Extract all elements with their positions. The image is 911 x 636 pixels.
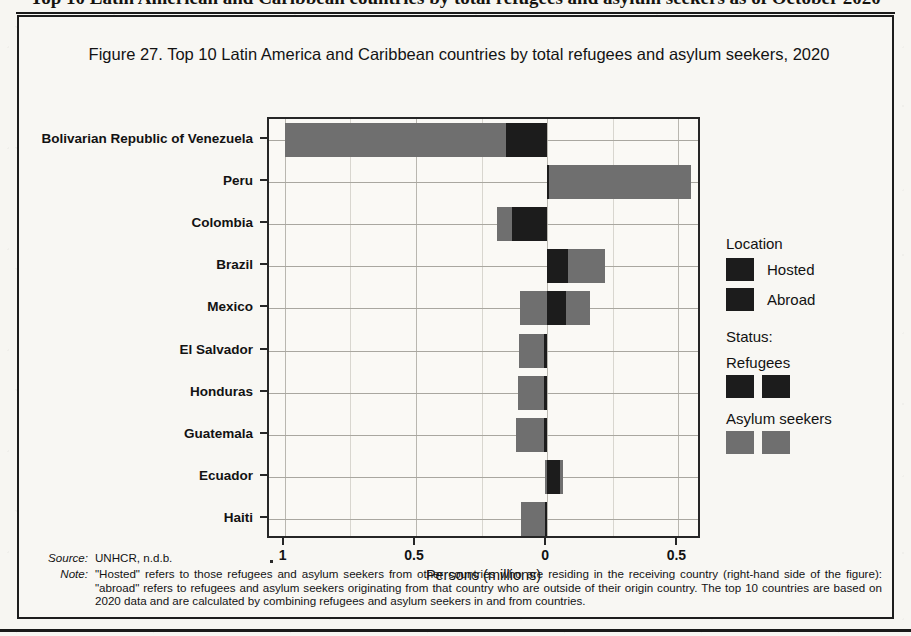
y-axis-label: Haiti (224, 509, 253, 524)
y-axis-label: Bolivarian Republic of Venezuela (41, 131, 253, 146)
legend-refugees-swatches (726, 375, 886, 398)
segment-refugees-abroad (544, 334, 547, 368)
bar-row[interactable] (269, 123, 698, 157)
y-axis-label: El Salvador (179, 341, 253, 356)
refugees-hosted-swatch-icon (726, 375, 754, 398)
legend-status-title: Status: (726, 328, 886, 345)
y-axis-label: Ecuador (199, 467, 253, 482)
refugees-abroad-swatch-icon (762, 375, 790, 398)
segment-asylum-abroad (521, 502, 545, 536)
note-value: "Hosted" refers to those refugees and as… (95, 567, 882, 608)
legend-location-title: Location (726, 235, 886, 252)
bar-row[interactable] (269, 460, 698, 494)
asylum-hosted-swatch-icon (726, 431, 754, 454)
x-axis-tick (282, 538, 284, 545)
bar-row[interactable] (269, 502, 698, 536)
segment-asylum-hosted (566, 291, 591, 325)
segment-asylum-abroad (285, 123, 507, 157)
segment-refugees-hosted (547, 460, 560, 494)
segment-asylum-hosted (560, 460, 563, 494)
note-line: Note: "Hosted" refers to those refugees … (36, 567, 882, 608)
hosted-swatch-icon (726, 258, 754, 281)
y-axis-label: Guatemala (184, 425, 253, 440)
x-axis-tick (675, 538, 677, 545)
chart-legend: Location Hosted Abroad Status: Refugees … (726, 235, 886, 466)
legend-status-group: Status: Refugees Asylum seekers (726, 328, 886, 454)
y-axis-label: Peru (223, 173, 253, 188)
figure-title: Figure 27. Top 10 Latin America and Cari… (79, 43, 839, 66)
source-line: Source: UNHCR, n.d.b. (36, 551, 882, 565)
segment-refugees-abroad (544, 418, 547, 452)
y-axis-label: Colombia (191, 215, 253, 230)
x-axis-tick (413, 538, 415, 545)
segment-refugees-hosted (547, 249, 568, 283)
segment-asylum-abroad (520, 291, 548, 325)
legend-abroad-label: Abroad (767, 291, 815, 308)
bar-row[interactable] (269, 334, 698, 368)
y-axis-label: Honduras (190, 383, 253, 398)
segment-asylum-hosted (549, 165, 691, 199)
x-axis-tick (544, 538, 546, 545)
bar-row[interactable] (269, 418, 698, 452)
asylum-abroad-swatch-icon (762, 431, 790, 454)
bar-row[interactable] (269, 165, 698, 199)
plot-area (267, 117, 700, 538)
segment-refugees-abroad (506, 123, 547, 157)
bar-row[interactable] (269, 207, 698, 241)
segment-asylum-abroad (497, 207, 511, 241)
figure-page: Top 10 Latin American and Caribbean coun… (0, 0, 911, 636)
y-axis-label: Brazil (216, 257, 253, 272)
note-label: Note: (36, 567, 95, 608)
bar-row[interactable] (269, 376, 698, 410)
legend-item-abroad[interactable]: Abroad (726, 288, 886, 311)
segment-refugees-hosted (547, 291, 565, 325)
y-axis-label: Mexico (207, 299, 253, 314)
bar-row[interactable] (269, 249, 698, 283)
figure-notes: Source: UNHCR, n.d.b. Note: "Hosted" ref… (36, 551, 882, 608)
legend-asylum-label: Asylum seekers (726, 410, 886, 427)
figure-container: Figure 27. Top 10 Latin America and Cari… (17, 15, 894, 619)
source-label: Source: (36, 551, 95, 565)
footer-divider (0, 629, 911, 632)
bar-row[interactable] (269, 291, 698, 325)
segment-asylum-abroad (519, 334, 544, 368)
segment-asylum-abroad (516, 418, 544, 452)
legend-hosted-label: Hosted (767, 261, 815, 278)
segment-asylum-abroad (518, 376, 544, 410)
header-divider (16, 12, 895, 14)
legend-asylum-swatches (726, 431, 886, 454)
abroad-swatch-icon (726, 288, 754, 311)
legend-item-hosted[interactable]: Hosted (726, 258, 886, 281)
segment-asylum-hosted (568, 249, 605, 283)
segment-refugees-abroad (545, 502, 547, 536)
page-header-title: Top 10 Latin American and Caribbean coun… (0, 0, 911, 9)
source-value: UNHCR, n.d.b. (95, 551, 882, 565)
segment-refugees-abroad (512, 207, 547, 241)
segment-refugees-abroad (544, 376, 547, 410)
legend-refugees-label: Refugees (726, 354, 886, 371)
